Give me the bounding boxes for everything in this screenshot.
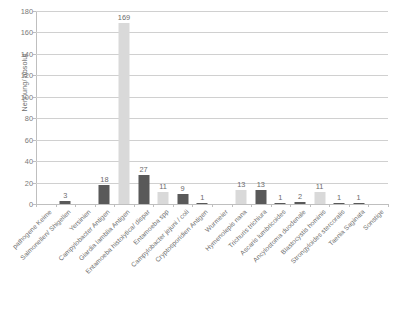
x-tick-mark: [232, 204, 233, 207]
x-tick-mark: [134, 204, 135, 207]
x-tick-mark: [251, 204, 252, 207]
x-tick-mark: [173, 204, 174, 207]
x-tick-mark: [192, 204, 193, 207]
x-tick-mark: [153, 204, 154, 207]
x-tick-mark: [95, 204, 96, 207]
x-tick-mark: [271, 204, 272, 207]
x-tick-mark: [290, 204, 291, 207]
x-tick-mark: [75, 204, 76, 207]
x-tick-mark: [349, 204, 350, 207]
x-tick-mark: [36, 204, 37, 207]
x-axis-label-text: Taenia Saginata: [327, 208, 366, 247]
x-tick-mark: [388, 204, 389, 207]
x-tick-mark: [114, 204, 115, 207]
x-axis-labels: pathogene KeimeSalmonellen/ ShigellenYer…: [0, 0, 394, 309]
x-tick-mark: [56, 204, 57, 207]
x-tick-mark: [310, 204, 311, 207]
x-tick-mark: [329, 204, 330, 207]
x-tick-mark: [368, 204, 369, 207]
x-tick-mark: [212, 204, 213, 207]
bar-chart: Nennung/ absolut 3181692711911313121111 …: [0, 0, 394, 309]
